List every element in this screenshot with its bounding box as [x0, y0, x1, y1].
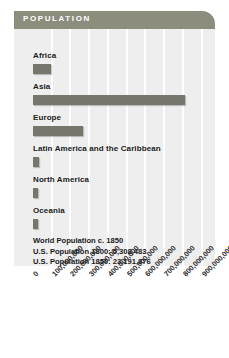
bar [33, 157, 39, 167]
plot-area: AfricaAsiaEuropeLatin America and the Ca… [14, 29, 215, 266]
x-axis-tick-labels: 0100,000,000200,000,000300,000,000400,00… [0, 266, 229, 358]
gridline [201, 29, 203, 266]
gridline [182, 29, 184, 266]
population-bar-chart-figure: POPULATION AfricaAsiaEuropeLatin America… [0, 0, 229, 358]
chart-header-bar: POPULATION [14, 11, 215, 29]
category-label: Latin America and the Caribbean [33, 144, 161, 153]
page-title: POPULATION [23, 14, 91, 23]
bar [33, 126, 83, 136]
gridline [163, 29, 165, 266]
category-label: North America [33, 175, 89, 184]
bar [33, 188, 38, 198]
x-tick-label: 0 [31, 269, 40, 278]
category-label: Oceania [33, 206, 65, 215]
bar [33, 95, 185, 105]
category-label: Africa [33, 51, 56, 60]
bar [33, 219, 38, 229]
category-label: Europe [33, 113, 61, 122]
chart-panel: POPULATION AfricaAsiaEuropeLatin America… [14, 11, 215, 266]
bar [33, 64, 51, 74]
category-label: Asia [33, 82, 50, 91]
